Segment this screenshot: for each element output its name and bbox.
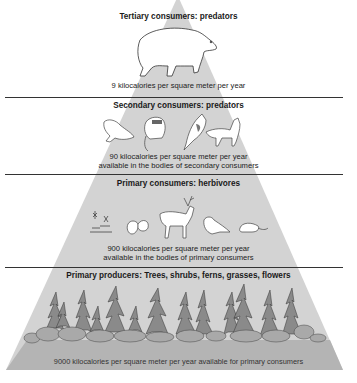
primary-consumers-caption-line2: available in the bodies of primary consu… [0, 253, 357, 262]
secondary-level-caption-line1: 90 kilocalories per square meter per yea… [0, 152, 357, 161]
primary-consumers-caption-line1: 900 kilocalories per square meter per ye… [0, 244, 357, 253]
tertiary-level-title: Tertiary consumers: predators [0, 12, 357, 21]
primary-consumers-title: Primary consumers: herbivores [0, 179, 357, 188]
tertiary-level-caption: 9 kilocalories per square meter per year [0, 81, 357, 90]
secondary-level-caption-line2: available in the bodies of secondary con… [0, 161, 357, 170]
pyramid-background [0, 0, 357, 383]
level-divider [5, 97, 343, 98]
secondary-level-title: Secondary consumers: predators [0, 101, 357, 110]
level-divider [5, 267, 343, 268]
energy-pyramid-diagram: Tertiary consumers: predators 9 kilocalo… [0, 0, 357, 383]
primary-producers-caption: 9000 kilocalories per square meter per y… [0, 357, 357, 366]
primary-producers-title: Primary producers: Trees, shrubs, ferns,… [0, 271, 357, 280]
level-divider [5, 174, 343, 175]
